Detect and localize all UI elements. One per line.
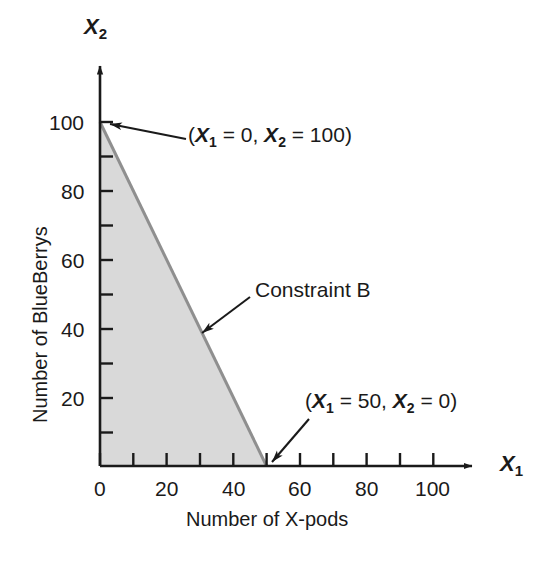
x-axis-symbol-letter: X <box>500 451 515 476</box>
y-tick-label-60: 60 <box>61 250 84 271</box>
x-intercept-open-paren: ( <box>305 389 312 412</box>
x-tick-label-0: 0 <box>94 478 106 499</box>
x-intercept-var2: X <box>393 389 407 412</box>
x-intercept-mid: = 50, <box>334 389 387 412</box>
y-tick-label-80: 80 <box>61 181 84 202</box>
y-intercept-sub1: 1 <box>209 134 217 150</box>
constraint-b-annotation: Constraint B <box>255 279 371 300</box>
x-intercept-tail: = 0) <box>415 389 458 412</box>
x-tick-label-20: 20 <box>155 478 178 499</box>
y-tick-label-20: 20 <box>61 388 84 409</box>
y-tick-label-40: 40 <box>61 319 84 340</box>
x-intercept-arrow <box>272 419 309 462</box>
x-axis-symbol: X1 <box>500 453 523 478</box>
y-intercept-sub2: 2 <box>278 134 286 150</box>
y-axis-title: Number of BlueBerrys <box>30 226 50 423</box>
y-intercept-arrow <box>110 124 186 139</box>
y-intercept-annotation: (X1 = 0, X2 = 100) <box>188 124 352 149</box>
x-tick-label-60: 60 <box>288 478 311 499</box>
y-intercept-var1: X <box>195 123 209 146</box>
y-tick-label-100: 100 <box>49 112 84 133</box>
x-intercept-annotation: (X1 = 50, X2 = 0) <box>305 390 457 415</box>
y-intercept-open-paren: ( <box>188 123 195 146</box>
x-intercept-sub1: 1 <box>326 400 334 416</box>
x-intercept-sub2: 2 <box>407 400 415 416</box>
constraint-b-arrow <box>202 297 250 333</box>
y-axis-symbol-letter: X <box>84 14 99 39</box>
x-axis-symbol-subscript: 1 <box>515 462 523 479</box>
y-axis-symbol: X2 <box>84 16 107 41</box>
x-axis-title: Number of X-pods <box>186 509 348 529</box>
y-intercept-tail: = 100) <box>286 123 352 146</box>
constraint-graph-figure: X2 X1 100 80 60 40 20 0 20 40 60 80 100 … <box>0 0 550 563</box>
x-tick-label-100: 100 <box>415 478 450 499</box>
y-axis-symbol-subscript: 2 <box>99 25 107 42</box>
x-tick-label-80: 80 <box>355 478 378 499</box>
y-intercept-var2: X <box>264 123 278 146</box>
y-intercept-mid: = 0, <box>217 123 258 146</box>
x-tick-label-40: 40 <box>222 478 245 499</box>
x-intercept-var1: X <box>312 389 326 412</box>
